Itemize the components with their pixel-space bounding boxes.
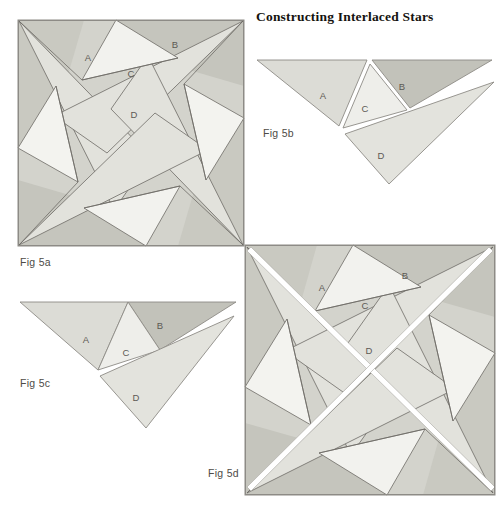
figure-5b: A B C D: [255, 58, 495, 190]
figure-page: Constructing Interlaced Stars: [0, 0, 502, 512]
piece-label-a: A: [320, 90, 327, 101]
piece-label-b: B: [172, 39, 178, 50]
piece-label-b: B: [399, 81, 405, 92]
figure-5c-svg: A B C D: [18, 300, 238, 432]
piece-label-a: A: [83, 334, 90, 345]
piece-label-c: C: [123, 347, 130, 358]
piece-label-d: D: [131, 109, 138, 120]
figure-5c: A B C D: [18, 300, 238, 432]
figure-5d-caption: Fig 5d: [208, 467, 239, 479]
piece-label-a: A: [319, 282, 326, 293]
piece-label-d: D: [366, 345, 373, 356]
page-title: Constructing Interlaced Stars: [256, 9, 434, 25]
piece-label-d: D: [133, 392, 140, 403]
piece-label-c: C: [362, 103, 369, 114]
piece-label-c: C: [128, 68, 135, 79]
piece-label-c: C: [362, 300, 369, 311]
figure-5a-caption: Fig 5a: [20, 256, 51, 268]
figure-5c-caption: Fig 5c: [20, 377, 50, 389]
piece-label-a: A: [85, 52, 92, 63]
figure-5a: A B C D: [18, 20, 244, 246]
piece-label-b: B: [402, 270, 408, 281]
piece-label-d: D: [378, 150, 385, 161]
figure-5d-svg: A B C D: [245, 245, 495, 495]
figure-5d: A B C D: [245, 245, 495, 495]
figure-5b-svg: A B C D: [255, 58, 495, 190]
piece-label-b: B: [157, 320, 163, 331]
figure-5a-svg: A B C D: [18, 20, 244, 246]
figure-5b-caption: Fig 5b: [263, 127, 294, 139]
